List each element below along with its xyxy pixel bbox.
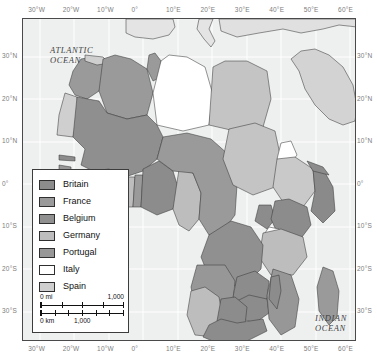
indian-line1: INDIAN [315,313,347,323]
scale-tick [103,302,104,308]
legend-label-portugal: Portugal [63,248,97,257]
axis-label-lat: 10°N [357,137,372,144]
axis-label-lon: 50°E [304,6,319,13]
scale-tick [55,310,56,316]
legend-label-spain: Spain [63,282,86,291]
legend-item-portugal: Portugal [39,244,128,261]
scale-tick [109,310,110,316]
legend-label-france: France [63,197,91,206]
axis-label-lon: 0° [132,6,139,13]
legend-swatch-france [39,197,55,207]
axis-label-lat: 20°N [357,95,372,102]
axis-label-lat: 20°S [2,265,17,272]
legend-swatch-spain [39,282,55,292]
axis-label-lon: 20°W [63,6,80,13]
legend-item-belgium: Belgium [39,210,128,227]
legend-item-france: France [39,193,128,210]
scale-tick [82,302,83,308]
axis-label-lon: 20°W [63,345,80,352]
scale-bar: 0 mi 1,000 0 km 1,000 [40,293,124,327]
axis-label-lon: 10°W [97,345,114,352]
axis-label-lat: 30°S [2,307,17,314]
legend-swatch-britain [39,180,55,190]
axis-label-lon: 60°E [338,6,353,13]
legend-label-germany: Germany [63,231,100,240]
scale-bar-miles-labels: 0 mi 1,000 [40,293,124,302]
scale-tick [41,310,42,316]
scale-bar-miles-track [40,302,124,308]
scale-tick [41,302,42,308]
legend-swatch-portugal [39,248,55,258]
legend-item-list: BritainFranceBelgiumGermanyPortugalItaly… [33,170,128,295]
map-legend: BritainFranceBelgiumGermanyPortugalItaly… [32,169,129,333]
scale-miles-zero: 0 mi [40,293,52,300]
axis-label-lat: 0° [357,180,364,187]
territory-egypt [209,61,271,131]
axis-label-lon: 20°E [200,6,215,13]
axis-label-lon: 40°E [269,345,284,352]
atlantic-line2: OCEAN [50,55,93,65]
territory-libya [153,55,213,131]
legend-item-germany: Germany [39,227,128,244]
legend-label-italy: Italy [63,265,80,274]
axis-label-lon: 10°E [166,6,181,13]
legend-item-britain: Britain [39,176,128,193]
axis-label-lat: 10°S [357,222,372,229]
indian-line2: OCEAN [315,323,347,333]
legend-label-britain: Britain [63,180,89,189]
axis-label-lon: 30°W [28,345,45,352]
scale-tick [123,302,124,308]
legend-item-italy: Italy [39,261,128,278]
legend-swatch-belgium [39,214,55,224]
map-frame: ATLANTIC OCEAN INDIAN OCEAN BritainFranc… [22,18,356,341]
scale-tick [123,310,124,316]
axis-label-lon: 0° [132,345,139,352]
axis-label-lat: 20°S [357,265,372,272]
scale-tick [68,310,69,316]
axis-label-lon: 30°E [235,345,250,352]
legend-swatch-germany [39,231,55,241]
ocean-label-indian: INDIAN OCEAN [315,313,347,333]
scale-tick [62,302,63,308]
atlantic-line1: ATLANTIC [50,45,93,55]
axis-label-lon: 60°E [338,345,353,352]
axis-label-lat: 20°N [2,95,17,102]
scale-bar-km-labels: 0 km 1,000 [40,317,124,327]
axis-label-lon: 10°E [166,345,181,352]
legend-swatch-italy [39,265,55,275]
legend-label-belgium: Belgium [63,214,96,223]
scale-miles-max: 1,000 [107,293,124,300]
scale-bar-km-track [40,310,124,316]
axis-label-lon: 40°E [269,6,284,13]
axis-label-lon: 10°W [97,6,114,13]
axis-label-lat: 10°S [2,222,17,229]
axis-label-lat: 30°N [357,52,372,59]
scale-tick [96,310,97,316]
map-figure: 30°W30°W20°W20°W10°W10°W0°0°10°E10°E20°E… [0,0,377,362]
scale-km-zero: 0 km [40,317,54,324]
axis-label-lat: 30°N [2,52,17,59]
ocean-label-atlantic: ATLANTIC OCEAN [50,45,93,65]
axis-label-lat: 10°N [2,137,17,144]
scale-tick [82,310,83,316]
axis-label-lon: 30°E [235,6,250,13]
axis-label-lat: 30°S [357,307,372,314]
axis-label-lon: 20°E [200,345,215,352]
axis-label-lon: 50°E [304,345,319,352]
scale-km-max: 1,000 [74,317,91,324]
axis-label-lon: 30°W [28,6,45,13]
axis-label-lat: 0° [2,180,9,187]
